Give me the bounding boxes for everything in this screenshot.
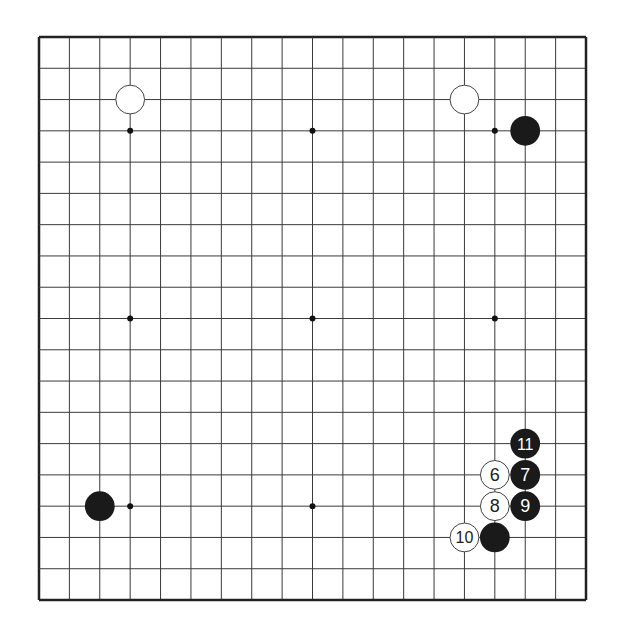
black-stone[interactable]	[480, 523, 510, 553]
move-number-label: 8	[490, 496, 500, 516]
white-stone[interactable]	[116, 85, 145, 114]
white-stone[interactable]	[450, 85, 479, 114]
white-stone-8[interactable]: 8	[480, 492, 509, 521]
move-number-label: 11	[517, 436, 534, 453]
white-stone-10[interactable]: 10	[450, 523, 479, 552]
move-number-label: 7	[520, 465, 530, 485]
star-point	[310, 128, 316, 134]
black-stone[interactable]	[85, 491, 115, 521]
black-stone-9[interactable]: 9	[510, 491, 540, 521]
star-point	[127, 503, 133, 509]
star-point	[310, 316, 316, 322]
go-board: 11678910	[0, 0, 621, 639]
star-point	[127, 316, 133, 322]
black-stone-7[interactable]: 7	[510, 460, 540, 490]
black-stone[interactable]	[510, 116, 540, 146]
star-point	[127, 128, 133, 134]
move-number-label: 9	[520, 496, 530, 516]
white-stone-6[interactable]: 6	[480, 460, 509, 489]
move-number-label: 10	[456, 529, 474, 546]
star-point	[310, 503, 316, 509]
star-point	[492, 316, 498, 322]
star-point	[492, 128, 498, 134]
move-number-label: 6	[490, 465, 500, 485]
black-stone-11[interactable]: 11	[510, 429, 540, 459]
